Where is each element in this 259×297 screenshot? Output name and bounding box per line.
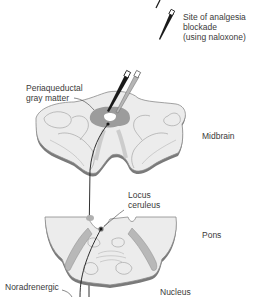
legend-line-2: blockade bbox=[183, 22, 246, 32]
legend-line-3: (using naloxone) bbox=[183, 32, 246, 42]
pons-label: Pons bbox=[202, 230, 221, 240]
noradrenergic-label: Noradrenergic bbox=[5, 282, 59, 292]
pag-label-line-2: gray matter bbox=[26, 93, 83, 103]
noradrenergic-leader-line bbox=[62, 290, 72, 297]
lc-label-line-1: Locus bbox=[128, 190, 160, 200]
top-electrode-icon bbox=[156, 0, 160, 8]
pons-section bbox=[45, 215, 176, 288]
lc-label-line-2: ceruleus bbox=[128, 200, 160, 210]
midbrain-label: Midbrain bbox=[202, 131, 235, 141]
legend-line-1: Site of analgesia bbox=[183, 12, 246, 22]
naloxone-electrode-icon bbox=[159, 9, 175, 40]
neuro-diagram: Site of analgesia blockade (using naloxo… bbox=[0, 0, 259, 297]
pag-label-line-1: Periaqueductal bbox=[26, 83, 83, 93]
pag-label: Periaqueductal gray matter bbox=[26, 83, 83, 103]
locus-ceruleus-label: Locus ceruleus bbox=[128, 190, 160, 210]
legend-label: Site of analgesia blockade (using naloxo… bbox=[183, 12, 246, 42]
diagram-svg bbox=[0, 0, 259, 297]
nucleus-label: Nucleus bbox=[160, 287, 191, 297]
